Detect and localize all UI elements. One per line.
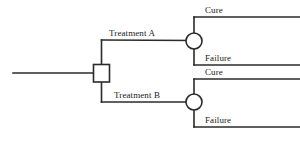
outcome-label-b-cure: Cure <box>205 68 223 77</box>
decision-tree-diagram: Treatment A Treatment B Cure Failure Cur… <box>0 0 300 143</box>
branch-label-treatment-a: Treatment A <box>109 29 155 38</box>
chance-node-b-circle[interactable] <box>186 94 202 110</box>
branch-treatment-a-line <box>102 40 195 41</box>
branch-label-treatment-b: Treatment B <box>114 91 160 100</box>
tree-graphics <box>0 0 300 143</box>
outcome-label-b-failure: Failure <box>205 116 231 125</box>
decision-node-square[interactable] <box>94 65 110 83</box>
outcome-label-a-cure: Cure <box>205 6 223 15</box>
outcome-label-a-failure: Failure <box>205 54 231 63</box>
chance-node-a-circle[interactable] <box>186 33 202 49</box>
